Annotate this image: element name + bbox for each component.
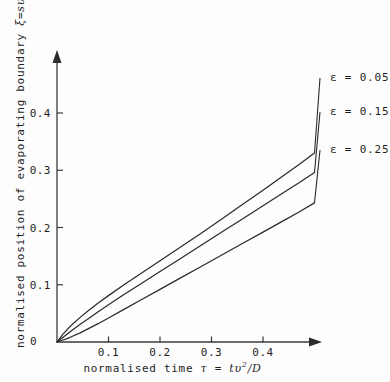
x-tick-label: 0.1	[98, 346, 119, 359]
x-axis-title: normalised time τ = tυ2/D	[0, 360, 345, 375]
x-axis-arrowhead	[309, 338, 322, 347]
y-axis-title: normalised position of evaporating bound…	[14, 0, 27, 348]
axes-group	[53, 50, 323, 347]
y-axis-equals: =	[14, 12, 27, 19]
y-axis-ticks	[57, 113, 63, 285]
x-axis-title-prefix: normalised time	[83, 362, 200, 375]
figure-container: 0 0.10.20.30.40.10.20.30.4 ε = 0.05ε = 0…	[0, 0, 390, 382]
data-curves	[57, 153, 315, 342]
curve-1	[57, 173, 315, 342]
y-axis-title-prefix: normalised position of evaporating bound…	[14, 26, 27, 348]
x-axis-ticks	[109, 337, 264, 343]
x-tick-label: 0.3	[201, 346, 222, 359]
x-axis-expr-D: D	[252, 362, 262, 375]
y-axis-expr-v: υ	[14, 0, 27, 5]
y-axis-arrowhead	[53, 50, 62, 63]
annotation-leader-lines	[315, 78, 321, 203]
curve-2	[57, 203, 315, 342]
x-axis-expr-v: υ	[234, 362, 241, 375]
series-label-0: ε = 0.05	[330, 71, 389, 84]
x-axis-equals: =	[207, 362, 229, 375]
y-axis-origin-label: 0	[30, 335, 37, 348]
plot-canvas	[0, 0, 390, 382]
series-label-1: ε = 0.15	[330, 105, 389, 118]
y-axis-xi-symbol: ξ	[14, 19, 27, 26]
x-tick-label: 0.4	[252, 346, 273, 359]
series-label-2: ε = 0.25	[330, 143, 389, 156]
y-axis-expr-s: s	[14, 5, 27, 11]
x-tick-label: 0.2	[149, 346, 170, 359]
